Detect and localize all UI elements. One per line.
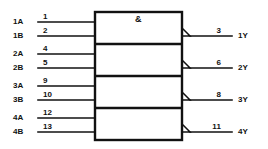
and-qualifier-symbol: & — [135, 15, 142, 24]
pin-number-9: 9 — [43, 77, 48, 85]
logic-symbol-canvas — [0, 0, 268, 149]
pin-number-12: 12 — [43, 109, 52, 117]
input-label-1a: 1A — [13, 18, 23, 26]
logic-symbol-diagram: & 1 1A 2 1B 3 1Y 4 2A 5 2B 6 2Y 9 3A 10 … — [0, 0, 268, 149]
input-label-2b: 2B — [13, 64, 23, 72]
pin-number-1: 1 — [43, 13, 48, 21]
pin-number-6: 6 — [205, 59, 221, 67]
output-label-2y: 2Y — [238, 64, 248, 72]
pin-number-13: 13 — [43, 123, 52, 131]
pin-number-11: 11 — [205, 123, 221, 131]
input-label-3a: 3A — [13, 82, 23, 90]
pin-number-10: 10 — [43, 91, 52, 99]
output-label-4y: 4Y — [238, 128, 248, 136]
output-label-1y: 1Y — [238, 32, 248, 40]
input-label-4a: 4A — [13, 114, 23, 122]
input-label-2a: 2A — [13, 50, 23, 58]
input-label-4b: 4B — [13, 128, 23, 136]
pin-number-5: 5 — [43, 59, 48, 67]
input-label-3b: 3B — [13, 96, 23, 104]
pin-number-2: 2 — [43, 27, 48, 35]
pin-number-8: 8 — [205, 91, 221, 99]
output-label-3y: 3Y — [238, 96, 248, 104]
pin-number-4: 4 — [43, 45, 48, 53]
input-label-1b: 1B — [13, 32, 23, 40]
pin-number-3: 3 — [205, 27, 221, 35]
